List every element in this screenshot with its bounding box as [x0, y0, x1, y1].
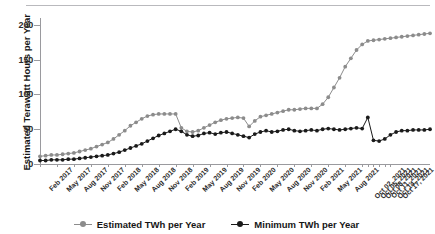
- x-tick-mark: [328, 164, 329, 167]
- x-tick-mark: [345, 164, 346, 167]
- x-tick-mark: [294, 164, 295, 167]
- y-tick-label: 200: [19, 20, 33, 30]
- x-tick-mark: [385, 164, 386, 167]
- legend-item-minimum[interactable]: Minimum TWh per Year: [231, 219, 359, 230]
- x-tick-mark: [243, 164, 244, 167]
- x-tick-mark: [379, 164, 380, 167]
- y-tick-label: 0: [28, 159, 33, 169]
- y-tick-label: 50: [23, 124, 33, 134]
- x-tick-mark: [193, 164, 194, 167]
- legend-label-minimum: Minimum TWh per Year: [254, 219, 359, 230]
- y-tick-mark: [34, 60, 40, 61]
- x-tick-mark: [362, 164, 363, 167]
- x-tick-mark: [108, 164, 109, 167]
- x-tick-mark: [91, 164, 92, 167]
- x-tick-mark: [277, 164, 278, 167]
- x-tick-mark: [142, 164, 143, 167]
- x-tick-mark: [260, 164, 261, 167]
- legend-marker-estimated-icon: [74, 220, 92, 229]
- x-tick-mark: [390, 164, 391, 167]
- y-tick-label: 100: [19, 89, 33, 99]
- x-tick-mark: [40, 164, 41, 167]
- legend-item-estimated[interactable]: Estimated TWh per Year: [74, 219, 206, 230]
- y-tick-mark: [34, 94, 40, 95]
- y-tick-mark: [34, 129, 40, 130]
- y-axis-tick-labels: 050100150200: [0, 0, 33, 234]
- x-tick-mark: [57, 164, 58, 167]
- legend-label-estimated: Estimated TWh per Year: [97, 219, 206, 230]
- x-tick-mark: [210, 164, 211, 167]
- x-tick-mark: [368, 164, 369, 167]
- chart-legend: Estimated TWh per Year Minimum TWh per Y…: [0, 214, 433, 234]
- x-tick-mark: [311, 164, 312, 167]
- x-tick-mark: [373, 164, 374, 167]
- legend-marker-minimum-icon: [231, 220, 249, 229]
- x-tick-mark: [74, 164, 75, 167]
- x-tick-mark: [159, 164, 160, 167]
- x-axis-line: [40, 164, 430, 165]
- x-tick-mark: [227, 164, 228, 167]
- x-tick-mark: [176, 164, 177, 167]
- x-axis-tick-labels: Feb 2017May 2017Aug 2017Nov 2017Feb 2018…: [40, 166, 430, 212]
- top-divider: [26, 5, 430, 6]
- x-tick-mark: [125, 164, 126, 167]
- y-tick-mark: [34, 25, 40, 26]
- plot-area: [40, 18, 430, 164]
- y-tick-label: 150: [19, 55, 33, 65]
